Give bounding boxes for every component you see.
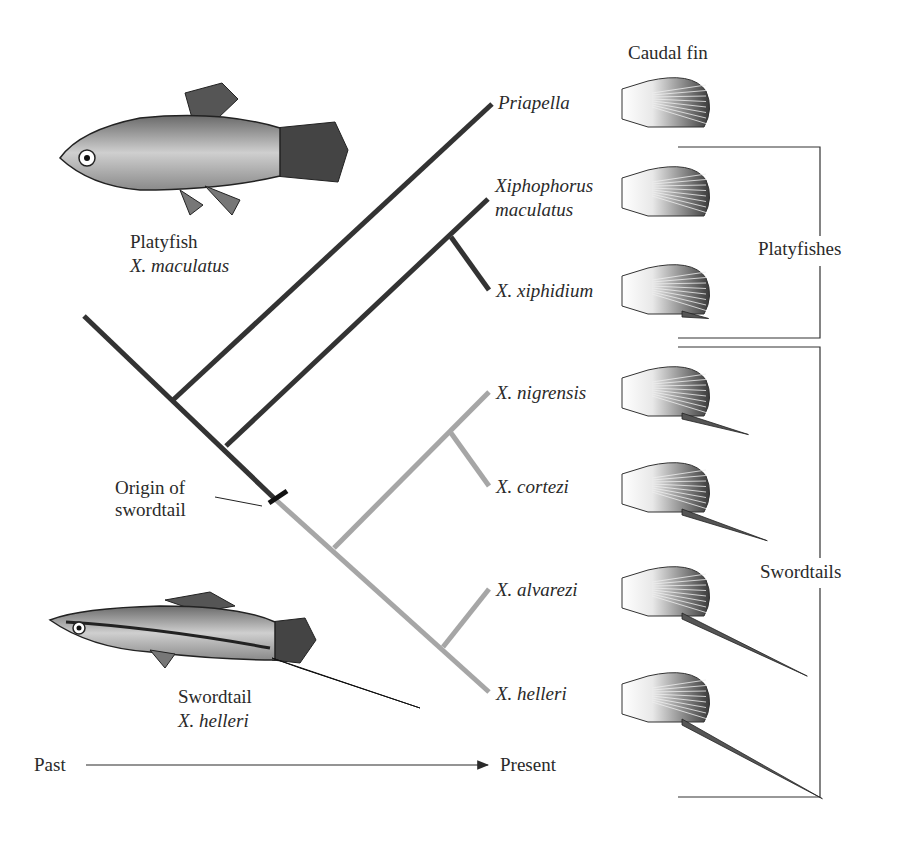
branch-swordtail-stem xyxy=(276,500,489,692)
caudal-fins xyxy=(622,78,822,799)
taxon-label-xmaculatus-1: Xiphophorus xyxy=(494,175,593,196)
taxon-label-priapella: Priapella xyxy=(497,92,570,113)
branch-alvarezi xyxy=(443,589,489,647)
caudal-fin-xalvarezi xyxy=(622,567,807,676)
caudal-fin-xhelleri xyxy=(622,673,822,799)
platyfish-common-name: Platyfish xyxy=(130,231,198,252)
branch-xiphidium xyxy=(451,237,489,290)
swordtail-common-name: Swordtail xyxy=(178,686,252,707)
branch-root xyxy=(84,316,276,500)
caudal-fin-xmaculatus xyxy=(622,167,710,216)
phylogeny-diagram: Caudal fin Platyfish X. maculatus Swordt… xyxy=(0,0,905,842)
sword-extension xyxy=(682,719,822,799)
taxon-labels: Priapella Xiphophorus maculatus X. xiphi… xyxy=(494,92,593,704)
taxon-label-xalvarezi: X. alvarezi xyxy=(495,579,578,600)
caudal-fin-priapella xyxy=(622,78,710,127)
taxon-label-xxiphidium: X. xiphidium xyxy=(495,280,593,301)
sword-extension xyxy=(682,413,748,435)
caudal-fin-xcortezi xyxy=(622,463,767,541)
caudal-fin-header: Caudal fin xyxy=(628,42,708,63)
caudal-fin-xnigrensis xyxy=(622,367,748,435)
branch-cortezi xyxy=(451,433,489,486)
origin-annotation-leader xyxy=(215,497,262,506)
time-axis-past-label: Past xyxy=(34,754,66,775)
time-axis-present-label: Present xyxy=(500,754,557,775)
taxon-label-xnigrensis: X. nigrensis xyxy=(495,382,586,403)
origin-annotation-line-1: Origin of xyxy=(115,477,186,498)
caudal-fin-xxiphidium xyxy=(622,265,710,319)
branch-platyfish-clade xyxy=(226,199,488,446)
group-label-platyfishes: Platyfishes xyxy=(758,238,841,259)
platyfish-species-name: X. maculatus xyxy=(129,255,229,276)
origin-annotation-line-2: swordtail xyxy=(115,499,186,520)
swordtail-species-name: X. helleri xyxy=(177,710,249,731)
taxon-label-xmaculatus-2: maculatus xyxy=(495,199,573,220)
swordtail-illustration: Swordtail X. helleri xyxy=(50,592,420,731)
sword-extension xyxy=(682,509,767,541)
taxon-label-xcortezi: X. cortezi xyxy=(495,476,569,497)
taxon-label-xhelleri: X. helleri xyxy=(495,683,567,704)
sword-extension xyxy=(682,613,807,676)
platyfish-illustration: Platyfish X. maculatus xyxy=(60,83,348,276)
branch-nigrensis-cortezi xyxy=(334,392,489,548)
group-label-swordtails: Swordtails xyxy=(760,561,841,582)
